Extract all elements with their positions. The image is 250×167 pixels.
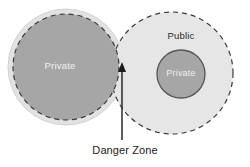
private-zone-core-circle — [13, 14, 119, 120]
venn-diagram-canvas — [0, 0, 250, 167]
public-private-core-circle — [157, 50, 205, 98]
venn-diagram: Private Public Private Danger Zone — [0, 0, 250, 167]
